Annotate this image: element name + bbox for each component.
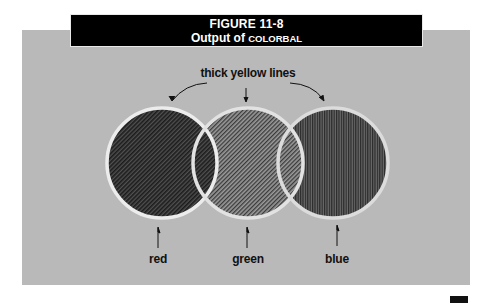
thick-yellow-lines-label: thick yellow lines [200,66,295,80]
annotation-arrows [169,83,324,102]
label-arrows [158,225,339,248]
page-marker [450,296,468,303]
green-label: green [232,252,264,266]
red-label: red [149,252,167,266]
blue-label: blue [325,252,349,266]
